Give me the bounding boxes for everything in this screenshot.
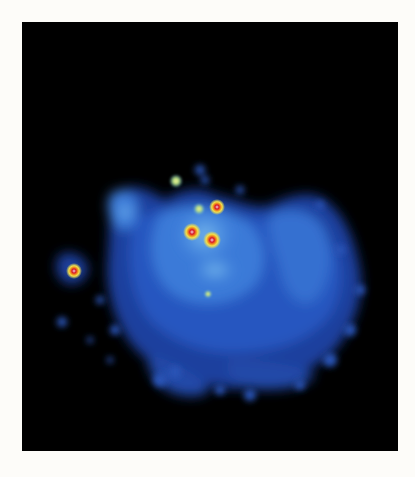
nebula-image: [22, 22, 398, 451]
image-frame: [22, 22, 398, 451]
point-source: [169, 174, 183, 188]
point-source: [203, 231, 221, 249]
point-source: [66, 263, 82, 279]
point-source: [183, 223, 201, 241]
point-source: [209, 199, 225, 215]
point-source: [193, 203, 205, 215]
point-source: [204, 290, 212, 298]
